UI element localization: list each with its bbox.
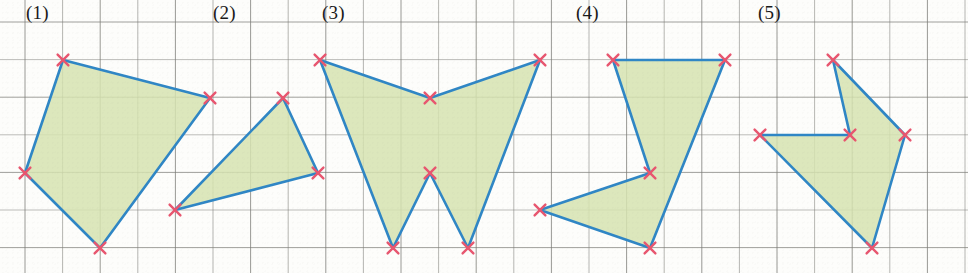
vertex-marker-layer bbox=[0, 0, 968, 273]
vertex-cross-icon bbox=[535, 55, 546, 66]
vertex-cross-icon bbox=[278, 93, 289, 104]
vertex-cross-icon bbox=[828, 55, 839, 66]
vertex-cross-icon bbox=[608, 55, 619, 66]
figure-label-4: (4) bbox=[576, 3, 599, 22]
vertex-cross-icon bbox=[645, 243, 656, 254]
worksheet-canvas: (1)(2)(3)(4)(5) bbox=[0, 0, 968, 273]
vertex-cross-icon bbox=[425, 168, 436, 179]
vertex-cross-icon bbox=[315, 55, 326, 66]
figure-label-2: (2) bbox=[213, 3, 236, 22]
vertex-cross-icon bbox=[645, 168, 656, 179]
vertex-cross-icon bbox=[170, 205, 181, 216]
vertex-cross-icon bbox=[205, 93, 216, 104]
vertex-cross-icon bbox=[95, 243, 106, 254]
vertex-cross-icon bbox=[755, 130, 766, 141]
vertex-cross-icon bbox=[720, 55, 731, 66]
vertex-cross-icon bbox=[425, 93, 436, 104]
vertex-cross-icon bbox=[867, 243, 878, 254]
vertex-cross-icon bbox=[900, 130, 911, 141]
vertex-cross-icon bbox=[463, 243, 474, 254]
figure-label-3: (3) bbox=[322, 3, 345, 22]
vertex-cross-icon bbox=[845, 130, 856, 141]
vertex-cross-icon bbox=[313, 168, 324, 179]
vertex-cross-icon bbox=[388, 243, 399, 254]
vertex-cross-icon bbox=[20, 168, 31, 179]
figure-label-1: (1) bbox=[26, 3, 49, 22]
vertex-cross-icon bbox=[535, 205, 546, 216]
figure-label-5: (5) bbox=[758, 3, 781, 22]
vertex-cross-icon bbox=[58, 55, 69, 66]
